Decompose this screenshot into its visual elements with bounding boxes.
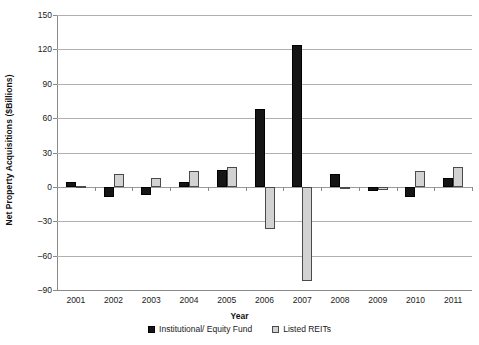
y-tick-label: –30 — [38, 216, 52, 226]
gridline-60 — [57, 118, 472, 119]
bar-reits-2004 — [189, 171, 199, 187]
x-tick-label-2011: 2011 — [444, 295, 462, 305]
y-tick-mark-30 — [53, 153, 57, 154]
x-tick-mark — [397, 187, 398, 191]
bar-institutional-2006 — [255, 109, 265, 187]
bar-reits-2003 — [151, 178, 161, 187]
x-tick-mark — [246, 187, 247, 191]
bar-institutional-2011 — [443, 178, 453, 187]
gridline--90 — [57, 290, 472, 291]
x-tick-mark — [359, 187, 360, 191]
legend-label: Listed REITs — [283, 324, 331, 334]
legend-entry-reits: Listed REITs — [272, 324, 331, 334]
legend-swatch-icon — [148, 326, 155, 333]
legend-swatch-icon — [272, 326, 279, 333]
bar-institutional-2010 — [405, 187, 415, 197]
x-tick-mark — [170, 187, 171, 191]
bar-institutional-2009 — [368, 187, 378, 192]
bar-reits-2001 — [76, 186, 86, 188]
x-tick-label-2008: 2008 — [330, 295, 349, 305]
x-tick-label-2007: 2007 — [293, 295, 312, 305]
x-tick-mark — [321, 187, 322, 191]
x-tick-label-2002: 2002 — [104, 295, 123, 305]
x-tick-label-2004: 2004 — [180, 295, 199, 305]
x-tick-label-2009: 2009 — [368, 295, 387, 305]
y-tick-mark-150 — [53, 15, 57, 16]
x-tick-mark — [472, 187, 473, 191]
chart-legend: Institutional/ Equity FundListed REITs — [0, 324, 479, 334]
x-tick-mark — [208, 187, 209, 191]
x-axis-title: Year — [0, 311, 479, 321]
y-axis-title: Net Property Acquisitions ($Billions) — [0, 0, 18, 300]
gridline-30 — [57, 153, 472, 154]
x-tick-mark — [283, 187, 284, 191]
y-tick-label: 60 — [43, 113, 52, 123]
x-tick-mark — [132, 187, 133, 191]
x-tick-label-2006: 2006 — [255, 295, 274, 305]
y-tick-label: –90 — [38, 285, 52, 295]
x-tick-label-2010: 2010 — [406, 295, 425, 305]
bar-institutional-2003 — [141, 187, 151, 195]
bar-institutional-2002 — [104, 187, 114, 197]
y-tick-label: 90 — [43, 79, 52, 89]
y-tick-mark--30 — [53, 221, 57, 222]
bar-institutional-2007 — [292, 45, 302, 187]
bar-reits-2008 — [340, 187, 350, 189]
x-tick-mark — [434, 187, 435, 191]
bar-reits-2010 — [415, 171, 425, 187]
gridline-150 — [57, 15, 472, 16]
y-axis-title-label: Net Property Acquisitions ($Billions) — [4, 74, 14, 225]
y-tick-label: –60 — [38, 251, 52, 261]
y-tick-label: 30 — [43, 148, 52, 158]
y-tick-mark-90 — [53, 84, 57, 85]
x-tick-label-2001: 2001 — [66, 295, 85, 305]
y-tick-mark-120 — [53, 49, 57, 50]
bar-institutional-2004 — [179, 182, 189, 187]
y-tick-label: 0 — [47, 182, 52, 192]
bar-chart: Net Property Acquisitions ($Billions) 15… — [0, 0, 479, 345]
gridline-120 — [57, 49, 472, 50]
bar-institutional-2001 — [66, 182, 76, 187]
bar-institutional-2005 — [217, 170, 227, 187]
legend-label: Institutional/ Equity Fund — [159, 324, 252, 334]
plot-area: 1501209060300–30–60–90 20012002200320042… — [57, 15, 472, 290]
y-tick-mark-60 — [53, 118, 57, 119]
y-tick-label: 120 — [38, 44, 52, 54]
gridline--60 — [57, 256, 472, 257]
bar-reits-2002 — [114, 174, 124, 187]
y-tick-label: 150 — [38, 10, 52, 20]
gridline-90 — [57, 84, 472, 85]
x-tick-mark — [95, 187, 96, 191]
x-tick-label-2003: 2003 — [142, 295, 161, 305]
legend-entry-institutional: Institutional/ Equity Fund — [148, 324, 252, 334]
bar-institutional-2008 — [330, 174, 340, 187]
y-tick-mark--60 — [53, 256, 57, 257]
x-tick-label-2005: 2005 — [217, 295, 236, 305]
bar-reits-2005 — [227, 167, 237, 186]
x-tick-mark — [57, 187, 58, 191]
y-tick-mark--90 — [53, 290, 57, 291]
bar-reits-2009 — [378, 187, 388, 190]
bar-reits-2007 — [302, 187, 312, 281]
bar-reits-2011 — [453, 167, 463, 186]
bar-reits-2006 — [265, 187, 275, 229]
